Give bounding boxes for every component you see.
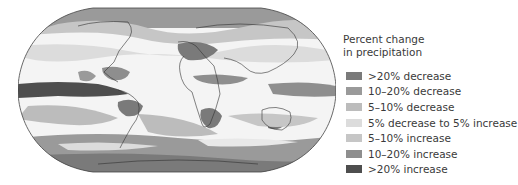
precipitation-change-map	[18, 6, 336, 174]
legend-swatch	[346, 165, 362, 173]
legend-item: >20% decrease	[343, 68, 518, 84]
legend-label: 5–10% decrease	[368, 101, 454, 113]
legend-item: 10–20% decrease	[343, 84, 518, 100]
legend-label: 10–20% increase	[368, 148, 458, 160]
legend-item: 5–10% decrease	[343, 99, 518, 115]
legend-swatch	[346, 103, 362, 111]
legend-swatch	[346, 150, 362, 158]
legend: Percent change in precipitation >20% dec…	[343, 33, 518, 177]
legend-swatch	[346, 87, 362, 95]
legend-item: >20% increase	[343, 162, 518, 178]
legend-item: 10–20% increase	[343, 146, 518, 162]
legend-label: >20% decrease	[368, 70, 451, 82]
legend-label: 5–10% increase	[368, 132, 451, 144]
legend-title-line2: in precipitation	[343, 46, 518, 59]
legend-title-line1: Percent change	[343, 33, 518, 46]
legend-label: >20% increase	[368, 163, 448, 175]
legend-label: 10–20% decrease	[368, 85, 461, 97]
legend-swatch	[346, 72, 362, 80]
legend-swatch	[346, 119, 362, 127]
legend-swatch	[346, 134, 362, 142]
legend-label: 5% decrease to 5% increase	[368, 117, 517, 129]
legend-item: 5–10% increase	[343, 130, 518, 146]
legend-item: 5% decrease to 5% increase	[343, 115, 518, 131]
legend-items: >20% decrease 10–20% decrease 5–10% decr…	[343, 68, 518, 177]
